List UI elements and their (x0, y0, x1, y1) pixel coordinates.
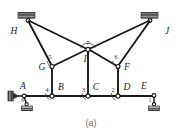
joint-F (116, 65, 120, 69)
label-G: G (39, 62, 46, 72)
figure-container: H J G F I A B C D E 7 5 6 4 3 2 8 1 (a) (0, 0, 183, 132)
label-E: E (140, 81, 147, 91)
link-number-7: 7 (86, 39, 89, 46)
joint-D (116, 94, 120, 98)
label-C: C (93, 82, 100, 92)
label-I: I (82, 54, 87, 64)
joint-C (86, 94, 90, 98)
mechanism-diagram: H J G F I A B C D E 7 5 6 4 3 2 8 1 (a) (0, 0, 183, 132)
label-B: B (58, 82, 64, 92)
figure-caption: (a) (86, 118, 97, 128)
link-number-4: 4 (45, 86, 48, 93)
label-D: D (123, 82, 131, 92)
link-number-6: 6 (114, 53, 117, 60)
member-G-I (53, 50, 87, 67)
label-J: J (165, 26, 170, 36)
label-H: H (10, 26, 19, 36)
link-number-5: 5 (48, 53, 51, 60)
link-number-8: 8 (21, 97, 24, 103)
link-number-2: 2 (111, 86, 114, 93)
label-A: A (19, 81, 26, 91)
link-number-1: 1 (149, 97, 152, 103)
member-H-I (30, 21, 88, 49)
joint-B (50, 94, 54, 98)
joint-I (86, 47, 90, 51)
joint-G (50, 65, 54, 69)
fixed-support-H (18, 13, 35, 23)
link-number-3: 3 (82, 86, 85, 93)
label-F: F (123, 62, 130, 72)
